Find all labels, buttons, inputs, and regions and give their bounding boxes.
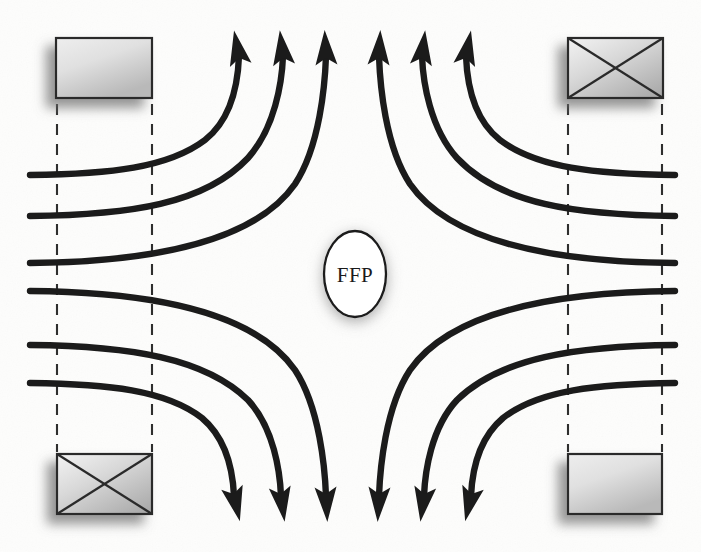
magnet-bottom-left[interactable] <box>57 454 152 514</box>
magnet-top-left[interactable] <box>56 38 152 98</box>
magnet-top-left-body <box>56 38 152 98</box>
magnet-bottom-right[interactable] <box>568 454 662 514</box>
ffp-label: FFP <box>337 263 374 287</box>
field-free-point-diagram: FFP <box>0 0 701 552</box>
magnet-top-right[interactable] <box>568 38 663 98</box>
magnet-bottom-right-body <box>568 454 662 514</box>
diagram-canvas: FFP <box>0 0 701 552</box>
ffp-marker[interactable]: FFP <box>324 231 386 317</box>
